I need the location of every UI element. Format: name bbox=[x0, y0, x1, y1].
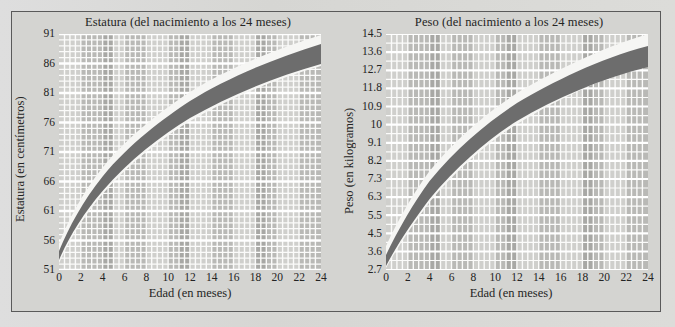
peso-plot-svg bbox=[386, 34, 648, 270]
y-tick-estatura-5: 66 bbox=[44, 176, 56, 188]
y-tick-peso-9: 6.3 bbox=[368, 192, 382, 204]
x-tick-estatura-1: 2 bbox=[78, 271, 84, 283]
y-tick-labels-peso: 14.513.612.711.810.9109.18.27.36.35.54.5… bbox=[342, 34, 382, 270]
y-tick-estatura-0: 91 bbox=[44, 28, 56, 40]
x-tick-peso-10: 20 bbox=[599, 271, 611, 283]
y-tick-peso-13: 2.7 bbox=[368, 264, 382, 276]
x-tick-estatura-11: 22 bbox=[293, 271, 305, 283]
y-tick-labels-estatura: 918681767166615651 bbox=[12, 34, 55, 270]
y-tick-estatura-7: 56 bbox=[44, 235, 56, 247]
plot-area-peso bbox=[386, 34, 648, 270]
y-tick-peso-12: 3.6 bbox=[368, 246, 382, 258]
y-tick-peso-11: 4.5 bbox=[368, 228, 382, 240]
plot-area-estatura bbox=[59, 34, 321, 270]
y-tick-estatura-3: 76 bbox=[44, 117, 56, 129]
x-tick-peso-0: 0 bbox=[383, 271, 389, 283]
x-tick-estatura-9: 18 bbox=[250, 271, 262, 283]
x-tick-peso-12: 24 bbox=[642, 271, 654, 283]
x-tick-labels-peso: 024681012141618202224 bbox=[386, 271, 648, 287]
y-tick-estatura-8: 51 bbox=[44, 264, 56, 276]
figure-frame: Estatura (del nacimiento a los 24 meses)… bbox=[11, 11, 661, 312]
chart-title-estatura: Estatura (del nacimiento a los 24 meses) bbox=[12, 15, 342, 30]
x-tick-estatura-3: 6 bbox=[122, 271, 128, 283]
y-tick-estatura-1: 86 bbox=[44, 58, 56, 70]
x-tick-estatura-12: 24 bbox=[315, 271, 327, 283]
y-tick-peso-0: 14.5 bbox=[362, 28, 382, 40]
y-tick-peso-10: 5.5 bbox=[368, 210, 382, 222]
x-tick-estatura-6: 12 bbox=[184, 271, 196, 283]
x-tick-peso-5: 10 bbox=[489, 271, 501, 283]
x-tick-peso-11: 22 bbox=[620, 271, 632, 283]
x-tick-estatura-8: 16 bbox=[228, 271, 240, 283]
x-tick-peso-6: 12 bbox=[511, 271, 523, 283]
x-tick-peso-7: 14 bbox=[533, 271, 545, 283]
x-tick-estatura-7: 14 bbox=[206, 271, 218, 283]
y-tick-peso-4: 10.9 bbox=[362, 101, 382, 113]
y-tick-peso-5: 10 bbox=[371, 119, 383, 131]
x-tick-peso-9: 18 bbox=[577, 271, 589, 283]
x-tick-peso-4: 8 bbox=[470, 271, 476, 283]
growth-charts-figure: Estatura (del nacimiento a los 24 meses)… bbox=[0, 0, 675, 327]
y-tick-peso-1: 13.6 bbox=[362, 46, 382, 58]
x-tick-estatura-2: 4 bbox=[100, 271, 106, 283]
chart-peso: Peso (del nacimiento a los 24 meses) Pes… bbox=[342, 12, 662, 313]
x-tick-estatura-4: 8 bbox=[143, 271, 149, 283]
x-tick-estatura-5: 10 bbox=[162, 271, 174, 283]
y-tick-estatura-6: 61 bbox=[44, 205, 56, 217]
x-tick-estatura-10: 20 bbox=[272, 271, 284, 283]
x-tick-peso-3: 6 bbox=[449, 271, 455, 283]
x-axis-label-peso: Edad (en meses) bbox=[342, 286, 662, 301]
y-tick-peso-6: 9.1 bbox=[368, 137, 382, 149]
y-tick-peso-2: 12.7 bbox=[362, 65, 382, 77]
estatura-plot-svg bbox=[59, 34, 321, 270]
x-tick-estatura-0: 0 bbox=[56, 271, 62, 283]
chart-estatura: Estatura (del nacimiento a los 24 meses)… bbox=[12, 12, 342, 313]
x-tick-peso-8: 16 bbox=[555, 271, 567, 283]
x-axis-label-estatura: Edad (en meses) bbox=[12, 286, 342, 301]
y-tick-peso-8: 7.3 bbox=[368, 173, 382, 185]
y-tick-peso-3: 11.8 bbox=[362, 83, 382, 95]
y-tick-peso-7: 8.2 bbox=[368, 155, 382, 167]
x-tick-peso-1: 2 bbox=[405, 271, 411, 283]
x-tick-peso-2: 4 bbox=[427, 271, 433, 283]
y-tick-estatura-4: 71 bbox=[44, 146, 56, 158]
y-tick-estatura-2: 81 bbox=[44, 87, 56, 99]
x-tick-labels-estatura: 024681012141618202224 bbox=[59, 271, 321, 287]
chart-title-peso: Peso (del nacimiento a los 24 meses) bbox=[342, 15, 662, 30]
